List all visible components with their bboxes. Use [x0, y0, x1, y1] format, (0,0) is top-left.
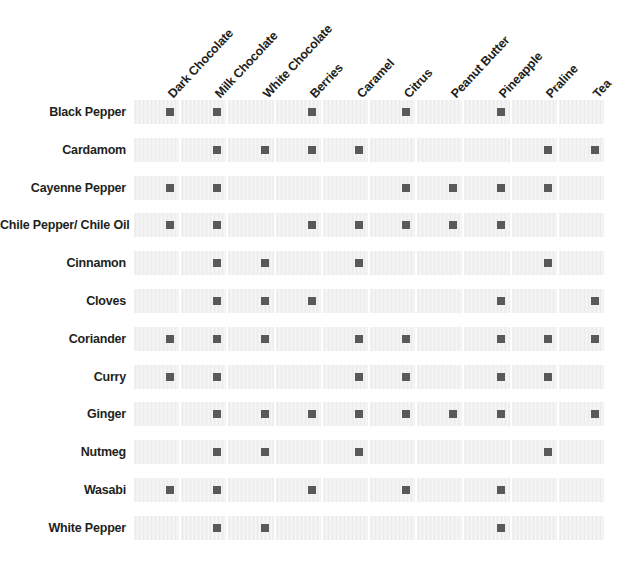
matrix-cell-marked[interactable] [181, 100, 226, 124]
matrix-cell-empty[interactable] [559, 516, 604, 540]
matrix-cell-marked[interactable] [181, 478, 226, 502]
matrix-cell-marked[interactable] [181, 289, 226, 313]
matrix-cell-marked[interactable] [181, 402, 226, 426]
matrix-cell-marked[interactable] [276, 402, 321, 426]
matrix-cell-empty[interactable] [417, 327, 462, 351]
matrix-cell-marked[interactable] [464, 516, 509, 540]
matrix-cell-empty[interactable] [323, 289, 368, 313]
matrix-cell-marked[interactable] [512, 365, 557, 389]
matrix-cell-empty[interactable] [134, 138, 179, 162]
matrix-cell-empty[interactable] [512, 100, 557, 124]
matrix-cell-empty[interactable] [276, 440, 321, 464]
matrix-cell-marked[interactable] [464, 365, 509, 389]
matrix-cell-marked[interactable] [228, 251, 273, 275]
matrix-cell-marked[interactable] [181, 138, 226, 162]
matrix-cell-empty[interactable] [276, 516, 321, 540]
matrix-cell-marked[interactable] [512, 440, 557, 464]
matrix-cell-marked[interactable] [228, 327, 273, 351]
matrix-cell-marked[interactable] [181, 251, 226, 275]
matrix-cell-marked[interactable] [559, 138, 604, 162]
matrix-cell-empty[interactable] [559, 213, 604, 237]
matrix-cell-marked[interactable] [181, 516, 226, 540]
matrix-cell-empty[interactable] [276, 176, 321, 200]
matrix-cell-empty[interactable] [134, 402, 179, 426]
matrix-cell-empty[interactable] [559, 365, 604, 389]
matrix-cell-empty[interactable] [417, 251, 462, 275]
matrix-cell-marked[interactable] [417, 176, 462, 200]
matrix-cell-empty[interactable] [370, 251, 415, 275]
matrix-cell-empty[interactable] [323, 516, 368, 540]
matrix-cell-empty[interactable] [228, 100, 273, 124]
matrix-cell-empty[interactable] [134, 289, 179, 313]
matrix-cell-empty[interactable] [559, 440, 604, 464]
matrix-cell-empty[interactable] [512, 213, 557, 237]
matrix-cell-marked[interactable] [276, 213, 321, 237]
matrix-cell-empty[interactable] [417, 478, 462, 502]
matrix-cell-marked[interactable] [417, 402, 462, 426]
matrix-cell-marked[interactable] [134, 365, 179, 389]
matrix-cell-marked[interactable] [276, 289, 321, 313]
matrix-cell-marked[interactable] [323, 251, 368, 275]
matrix-cell-marked[interactable] [464, 327, 509, 351]
matrix-cell-marked[interactable] [370, 176, 415, 200]
matrix-cell-empty[interactable] [276, 365, 321, 389]
matrix-cell-empty[interactable] [464, 440, 509, 464]
matrix-cell-marked[interactable] [134, 100, 179, 124]
matrix-cell-marked[interactable] [370, 478, 415, 502]
matrix-cell-marked[interactable] [181, 365, 226, 389]
matrix-cell-marked[interactable] [323, 213, 368, 237]
matrix-cell-marked[interactable] [181, 213, 226, 237]
matrix-cell-marked[interactable] [370, 365, 415, 389]
matrix-cell-empty[interactable] [559, 176, 604, 200]
matrix-cell-marked[interactable] [512, 176, 557, 200]
matrix-cell-marked[interactable] [464, 289, 509, 313]
matrix-cell-empty[interactable] [417, 365, 462, 389]
matrix-cell-marked[interactable] [370, 100, 415, 124]
matrix-cell-marked[interactable] [559, 289, 604, 313]
matrix-cell-empty[interactable] [228, 478, 273, 502]
matrix-cell-empty[interactable] [417, 289, 462, 313]
matrix-cell-marked[interactable] [323, 365, 368, 389]
matrix-cell-empty[interactable] [417, 440, 462, 464]
matrix-cell-empty[interactable] [512, 289, 557, 313]
matrix-cell-empty[interactable] [134, 440, 179, 464]
matrix-cell-marked[interactable] [559, 327, 604, 351]
matrix-cell-marked[interactable] [464, 402, 509, 426]
matrix-cell-empty[interactable] [134, 516, 179, 540]
matrix-cell-empty[interactable] [323, 100, 368, 124]
matrix-cell-marked[interactable] [181, 176, 226, 200]
matrix-cell-marked[interactable] [228, 402, 273, 426]
matrix-cell-empty[interactable] [228, 176, 273, 200]
matrix-cell-empty[interactable] [134, 251, 179, 275]
matrix-cell-marked[interactable] [276, 138, 321, 162]
matrix-cell-empty[interactable] [370, 138, 415, 162]
matrix-cell-empty[interactable] [512, 516, 557, 540]
matrix-cell-empty[interactable] [559, 100, 604, 124]
matrix-cell-empty[interactable] [323, 176, 368, 200]
matrix-cell-marked[interactable] [228, 516, 273, 540]
matrix-cell-marked[interactable] [464, 100, 509, 124]
matrix-cell-marked[interactable] [417, 213, 462, 237]
matrix-cell-empty[interactable] [370, 440, 415, 464]
matrix-cell-marked[interactable] [512, 251, 557, 275]
matrix-cell-marked[interactable] [228, 289, 273, 313]
matrix-cell-marked[interactable] [370, 327, 415, 351]
matrix-cell-empty[interactable] [417, 516, 462, 540]
matrix-cell-marked[interactable] [464, 478, 509, 502]
matrix-cell-marked[interactable] [134, 213, 179, 237]
matrix-cell-empty[interactable] [464, 251, 509, 275]
matrix-cell-empty[interactable] [559, 478, 604, 502]
matrix-cell-marked[interactable] [181, 327, 226, 351]
matrix-cell-marked[interactable] [370, 402, 415, 426]
matrix-cell-marked[interactable] [134, 176, 179, 200]
matrix-cell-marked[interactable] [228, 138, 273, 162]
matrix-cell-marked[interactable] [134, 327, 179, 351]
matrix-cell-marked[interactable] [134, 478, 179, 502]
matrix-cell-empty[interactable] [370, 289, 415, 313]
matrix-cell-marked[interactable] [559, 402, 604, 426]
matrix-cell-marked[interactable] [323, 327, 368, 351]
matrix-cell-empty[interactable] [323, 478, 368, 502]
matrix-cell-marked[interactable] [464, 176, 509, 200]
matrix-cell-empty[interactable] [512, 402, 557, 426]
matrix-cell-marked[interactable] [228, 440, 273, 464]
